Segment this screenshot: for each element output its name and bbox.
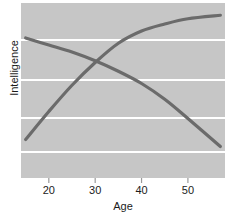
x-axis-tick-label: 40	[135, 184, 147, 196]
chart-container: Intelligence Age 20304050	[0, 0, 231, 219]
x-axis-tick-group	[49, 178, 188, 183]
x-axis-label: Age	[21, 200, 225, 212]
x-axis-tick-label: 20	[43, 184, 55, 196]
x-axis-tick-label: 30	[89, 184, 101, 196]
y-axis-label: Intelligence	[8, 8, 20, 128]
x-axis-tick-label: 50	[182, 184, 194, 196]
chart-plot-svg	[0, 0, 231, 219]
